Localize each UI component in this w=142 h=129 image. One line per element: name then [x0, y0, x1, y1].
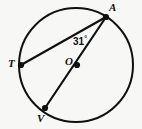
- angle-measure-label: 31°: [73, 35, 87, 47]
- point-label-O: O: [65, 56, 73, 67]
- point-marker-T: [18, 62, 24, 68]
- point-label-T: T: [8, 58, 15, 69]
- chord-segment-AT: [21, 17, 106, 65]
- geometry-figure: A T O V 31°: [0, 0, 142, 129]
- degree-symbol: °: [84, 35, 87, 42]
- angle-value: 31: [73, 36, 84, 47]
- point-marker-A: [103, 14, 109, 20]
- point-label-A: A: [109, 2, 116, 13]
- point-marker-V: [42, 105, 48, 111]
- point-marker-O: [74, 62, 80, 68]
- point-label-V: V: [37, 113, 44, 124]
